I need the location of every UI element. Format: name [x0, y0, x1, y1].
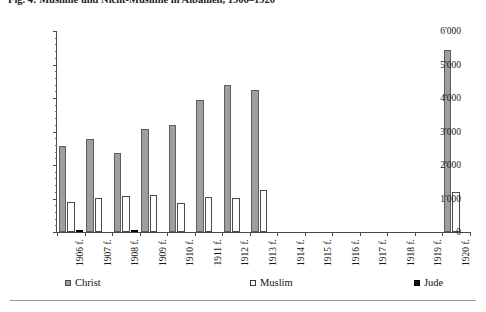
y-axis-minor-tick: [55, 158, 58, 159]
bar-group: [140, 31, 168, 232]
x-axis-tick: [140, 232, 141, 236]
x-axis-tick-label: 1920 f.: [461, 239, 471, 266]
y-axis-minor-tick: [55, 172, 58, 173]
bar-group: [415, 31, 443, 232]
bar-group: [387, 31, 415, 232]
legend-item-christ[interactable]: Christ: [65, 277, 101, 288]
x-axis-tick-label: 1917 f.: [378, 239, 388, 266]
y-axis-minor-tick: [55, 185, 58, 186]
bar-muslim: [67, 202, 75, 232]
legend-label: Jude: [424, 277, 443, 288]
bar-muslim: [205, 197, 213, 232]
y-axis-minor-tick: [55, 58, 58, 59]
bar-chart: 01'0002'0003'0004'0005'0006'0001906 f.19…: [57, 31, 470, 232]
x-axis-tick: [167, 232, 168, 236]
x-axis-tick-label: 1910 f.: [185, 239, 195, 266]
x-axis-tick: [57, 232, 58, 236]
bar-muslim: [95, 198, 103, 232]
bar-group: [112, 31, 140, 232]
bar-christ: [141, 129, 149, 232]
bar-group: [57, 31, 85, 232]
y-axis-major-tick: [53, 65, 57, 66]
y-axis-tick-label: 0: [456, 227, 461, 237]
bar-christ: [114, 153, 122, 232]
y-axis-minor-tick: [55, 78, 58, 79]
y-axis-tick-label: 1'000: [440, 194, 461, 204]
y-axis-tick-label: 6'000: [440, 26, 461, 36]
x-axis-tick-label: 1908 f.: [130, 239, 140, 266]
bar-jude: [76, 230, 84, 232]
x-axis-tick-label: 1906 f.: [75, 239, 85, 266]
x-axis-tick: [470, 232, 471, 236]
bar-group: [277, 31, 305, 232]
legend-item-jude[interactable]: Jude: [414, 277, 443, 288]
figure-title-strip: Fig. 4: Muslime und Nicht-Muslime in Alb…: [0, 0, 486, 9]
y-axis-minor-tick: [55, 178, 58, 179]
y-axis-minor-tick: [55, 152, 58, 153]
x-axis-tick: [85, 232, 86, 236]
y-axis-minor-tick: [55, 225, 58, 226]
y-axis-tick-label: 3'000: [440, 127, 461, 137]
x-axis-line: [56, 232, 470, 233]
y-axis-minor-tick: [55, 125, 58, 126]
bar-muslim: [232, 198, 240, 232]
bar-groups: [57, 31, 470, 232]
bar-group: [222, 31, 250, 232]
x-axis-tick: [387, 232, 388, 236]
y-axis-major-tick: [53, 165, 57, 166]
bar-christ: [86, 139, 94, 232]
legend-item-muslim[interactable]: Muslim: [250, 277, 293, 288]
bar-group: [332, 31, 360, 232]
x-axis-tick-label: 1918 f.: [406, 239, 416, 266]
y-axis-major-tick: [53, 98, 57, 99]
x-axis-tick-label: 1919 f.: [433, 239, 443, 266]
bar-muslim: [177, 203, 185, 232]
y-axis-tick-label: 4'000: [440, 93, 461, 103]
y-axis-major-tick: [53, 31, 57, 32]
x-axis-tick-label: 1907 f.: [103, 239, 113, 266]
legend-swatch-icon: [414, 280, 420, 286]
bar-christ: [196, 100, 204, 232]
x-axis-tick: [305, 232, 306, 236]
x-axis-tick-label: 1915 f.: [323, 239, 333, 266]
y-axis-minor-tick: [55, 212, 58, 213]
bar-muslim: [122, 196, 130, 233]
legend-label: Muslim: [260, 277, 293, 288]
x-axis-tick-label: 1916 f.: [351, 239, 361, 266]
y-axis-minor-tick: [55, 138, 58, 139]
bar-group: [85, 31, 113, 232]
chart-legend: ChristMuslimJude: [57, 277, 452, 293]
x-axis-tick: [250, 232, 251, 236]
x-axis-tick-label: 1909 f.: [158, 239, 168, 266]
y-axis-minor-tick: [55, 145, 58, 146]
y-axis-minor-tick: [55, 205, 58, 206]
x-axis-tick: [277, 232, 278, 236]
x-axis-tick: [222, 232, 223, 236]
page-title: Fig. 4: Muslime und Nicht-Muslime in Alb…: [8, 0, 275, 5]
x-axis-tick: [442, 232, 443, 236]
bar-christ: [251, 90, 259, 232]
y-axis-minor-tick: [55, 71, 58, 72]
x-axis-tick-label: 1913 f.: [268, 239, 278, 266]
bar-muslim: [150, 195, 158, 232]
legend-swatch-icon: [65, 280, 71, 286]
x-axis-tick-label: 1914 f.: [296, 239, 306, 266]
bar-group: [167, 31, 195, 232]
y-axis-minor-tick: [55, 105, 58, 106]
bar-christ: [444, 50, 452, 232]
y-axis-minor-tick: [55, 219, 58, 220]
x-axis-tick: [195, 232, 196, 236]
bar-christ: [169, 125, 177, 232]
legend-swatch-icon: [250, 280, 256, 286]
y-axis-tick-label: 2'000: [440, 160, 461, 170]
y-axis-major-tick: [53, 132, 57, 133]
bar-jude: [131, 230, 139, 232]
y-axis-minor-tick: [55, 192, 58, 193]
footer-divider: [10, 300, 476, 301]
y-axis-minor-tick: [55, 44, 58, 45]
bar-group: [195, 31, 223, 232]
y-axis-major-tick: [53, 199, 57, 200]
x-axis-tick: [360, 232, 361, 236]
bar-group: [305, 31, 333, 232]
y-axis-minor-tick: [55, 91, 58, 92]
